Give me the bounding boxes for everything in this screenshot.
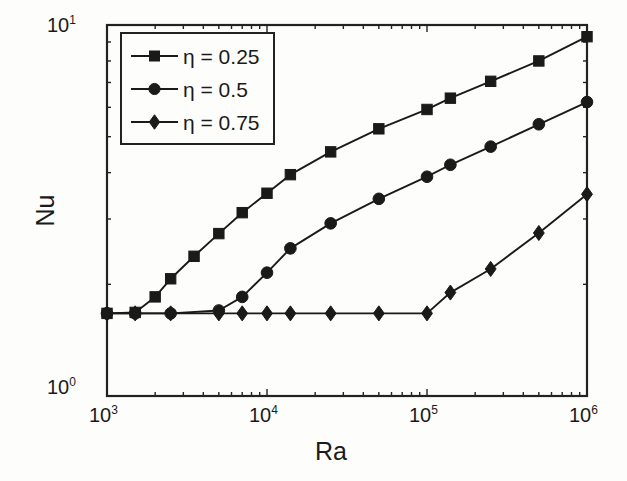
legend-label-eta-025: η = 0.25 <box>183 45 259 69</box>
y-tick-label-10e0: 100 <box>47 376 76 399</box>
data-point-circle <box>485 141 497 153</box>
data-point-diamond <box>325 306 336 321</box>
data-point-square <box>325 147 335 157</box>
x-axis-title: Ra <box>315 437 347 466</box>
data-point-diamond <box>373 306 384 321</box>
data-point-square <box>374 124 384 134</box>
data-point-diamond <box>262 306 273 321</box>
data-point-circle <box>445 159 457 171</box>
data-point-diamond <box>485 261 496 276</box>
data-point-square <box>534 56 544 66</box>
series-2 <box>102 187 593 321</box>
data-point-diamond <box>285 306 296 321</box>
legend-label-eta-05: η = 0.5 <box>183 78 248 102</box>
data-point-square <box>285 169 295 179</box>
data-point-square <box>189 251 199 261</box>
data-point-square <box>445 93 455 103</box>
x-tick-label-10e5: 105 <box>409 404 438 427</box>
y-tick-label-10e1: 101 <box>47 14 76 37</box>
data-point-circle <box>581 96 593 108</box>
data-point-circle <box>261 267 273 279</box>
data-point-square <box>582 31 592 41</box>
figure-container: 101 100 103 104 105 106 Nu Ra η = 0.25 η… <box>0 0 627 481</box>
data-point-circle <box>236 291 248 303</box>
y-axis-title: Nu <box>31 195 60 227</box>
x-tick-label-10e4: 104 <box>249 404 278 427</box>
data-point-square <box>214 228 224 238</box>
data-point-square <box>237 207 247 217</box>
data-point-square <box>165 274 175 284</box>
x-tick-label-10e3: 103 <box>89 404 118 427</box>
data-point-square <box>150 292 160 302</box>
data-point-diamond <box>445 285 456 300</box>
legend-marker-circle <box>149 83 160 94</box>
data-point-square <box>422 104 432 114</box>
x-tick-label-10e6: 106 <box>569 404 598 427</box>
data-point-diamond <box>237 306 248 321</box>
data-point-diamond <box>422 306 433 321</box>
data-point-diamond <box>582 187 593 202</box>
data-point-diamond <box>533 225 544 240</box>
data-point-square <box>262 188 272 198</box>
data-point-circle <box>325 218 337 230</box>
data-point-circle <box>373 193 385 205</box>
legend-label-eta-075: η = 0.75 <box>183 111 259 135</box>
data-point-circle <box>285 243 297 255</box>
data-point-circle <box>533 118 545 130</box>
data-point-circle <box>421 171 433 183</box>
data-point-square <box>485 76 495 86</box>
data-point-diamond <box>165 306 176 321</box>
legend-marker-square <box>150 51 160 61</box>
